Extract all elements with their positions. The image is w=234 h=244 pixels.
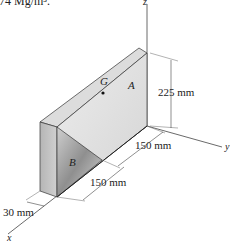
dim-150-b-label: 150 mm xyxy=(90,177,126,188)
header-text: 8.74 Mg/m³. xyxy=(0,0,50,7)
dim-225-label: 225 mm xyxy=(158,87,194,98)
block-side-face xyxy=(40,122,57,197)
dim-30-label: 30 mm xyxy=(3,207,34,218)
x-axis-label: x xyxy=(7,233,11,243)
y-axis-label: y xyxy=(225,142,229,152)
part-b-label: B xyxy=(69,157,76,168)
z-axis-label: z xyxy=(143,0,147,7)
centroid-label: G xyxy=(100,76,108,87)
part-a-label: A xyxy=(128,80,135,91)
dim-150-a-label: 150 mm xyxy=(135,140,171,151)
centroid-dot xyxy=(101,91,104,94)
